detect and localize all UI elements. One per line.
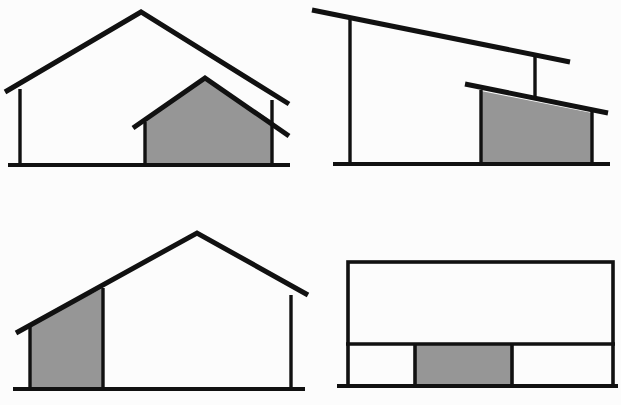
diagram-sheet <box>0 0 621 405</box>
panel-hit-bottom-left[interactable] <box>0 203 310 405</box>
panel-hit-bottom-right[interactable] <box>311 203 621 405</box>
panel-hit-top-left[interactable] <box>0 0 310 202</box>
panel-hit-top-right[interactable] <box>311 0 621 202</box>
